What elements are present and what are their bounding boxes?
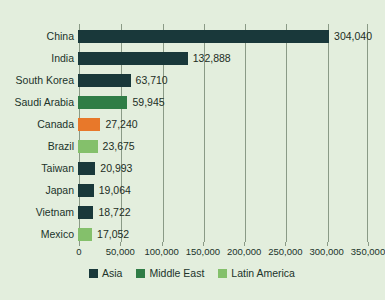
bar-rows: China304,040India132,888South Korea63,71… <box>0 24 384 242</box>
category-label: South Korea <box>0 75 78 86</box>
legend-label: Middle East <box>149 268 204 279</box>
x-tick-label: 250,000 <box>268 247 302 257</box>
bar-container: 18,722 <box>78 201 384 223</box>
bar[interactable] <box>78 140 98 153</box>
bar-container: 304,040 <box>78 25 384 47</box>
bar-value-label: 27,240 <box>100 119 137 130</box>
bar-container: 20,993 <box>78 157 384 179</box>
bar-value-label: 18,722 <box>93 207 130 218</box>
legend-swatch <box>136 269 145 278</box>
x-tick-label: 100,000 <box>144 247 178 257</box>
bar-value-label: 304,040 <box>329 31 372 42</box>
bar[interactable] <box>78 96 127 109</box>
legend-swatch <box>218 269 227 278</box>
category-label: Taiwan <box>0 163 78 174</box>
bar-row: South Korea63,710 <box>0 69 384 91</box>
bar[interactable] <box>78 30 329 43</box>
x-tick-label: 350,000 <box>351 247 385 257</box>
chart-legend: AsiaMiddle EastLatin America <box>0 268 384 279</box>
legend-label: Asia <box>102 268 122 279</box>
category-label: China <box>0 31 78 42</box>
bar-value-label: 132,888 <box>188 53 231 64</box>
category-label: Mexico <box>0 229 78 240</box>
legend-item[interactable]: Middle East <box>136 268 204 279</box>
bar-container: 59,945 <box>78 91 384 113</box>
category-label: Canada <box>0 119 78 130</box>
bar-container: 27,240 <box>78 113 384 135</box>
bar-row: Vietnam18,722 <box>0 201 384 223</box>
category-label: Saudi Arabia <box>0 97 78 108</box>
bar-value-label: 17,052 <box>92 229 129 240</box>
bar-value-label: 20,993 <box>95 163 132 174</box>
bar[interactable] <box>78 228 92 241</box>
bar-row: India132,888 <box>0 47 384 69</box>
x-tick-label: 150,000 <box>186 247 220 257</box>
bar-row: Japan19,064 <box>0 179 384 201</box>
x-axis: 050,000100,000150,000200,000250,000300,0… <box>79 242 368 258</box>
x-tick-label: 0 <box>76 247 81 257</box>
bar[interactable] <box>78 184 94 197</box>
x-tick-label: 50,000 <box>106 247 135 257</box>
bar-container: 19,064 <box>78 179 384 201</box>
bar[interactable] <box>78 74 131 87</box>
bar-value-label: 63,710 <box>131 75 168 86</box>
bar[interactable] <box>78 162 95 175</box>
bar-value-label: 23,675 <box>98 141 135 152</box>
bar-row: Canada27,240 <box>0 113 384 135</box>
category-label: Japan <box>0 185 78 196</box>
bar[interactable] <box>78 118 100 131</box>
bar-row: China304,040 <box>0 25 384 47</box>
legend-label: Latin America <box>231 268 295 279</box>
bar-row: Saudi Arabia59,945 <box>0 91 384 113</box>
bar-container: 132,888 <box>78 47 384 69</box>
bar-row: Brazil23,675 <box>0 135 384 157</box>
bar-container: 63,710 <box>78 69 384 91</box>
bar[interactable] <box>78 206 93 219</box>
legend-item[interactable]: Asia <box>89 268 122 279</box>
bar-value-label: 19,064 <box>94 185 131 196</box>
category-label: India <box>0 53 78 64</box>
bar-container: 23,675 <box>78 135 384 157</box>
category-label: Brazil <box>0 141 78 152</box>
bar-value-label: 59,945 <box>127 97 164 108</box>
legend-item[interactable]: Latin America <box>218 268 295 279</box>
x-tick-label: 300,000 <box>310 247 344 257</box>
category-label: Vietnam <box>0 207 78 218</box>
legend-swatch <box>89 269 98 278</box>
bar[interactable] <box>78 52 188 65</box>
bar-row: Taiwan20,993 <box>0 157 384 179</box>
x-tick-label: 200,000 <box>227 247 261 257</box>
